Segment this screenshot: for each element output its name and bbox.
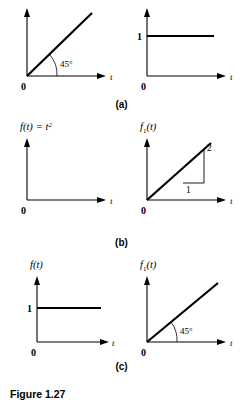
x-axis-label: t <box>112 338 115 348</box>
x-axis-arrowhead <box>97 73 106 79</box>
chart-panel-c-right: f1(t) 45° 0 t <box>128 256 238 358</box>
function-label: f(t) <box>30 259 43 271</box>
figure-caption: Figure 1.27 <box>10 388 65 400</box>
y-axis-arrowhead <box>144 276 150 285</box>
origin-label: 0 <box>21 205 26 216</box>
origin-label: 0 <box>141 81 146 92</box>
slope-rise-label: 2 <box>207 143 212 153</box>
slope-run-label: 1 <box>186 185 191 195</box>
angle-label: 45° <box>180 326 193 336</box>
y-axis-arrowhead <box>24 138 30 147</box>
x-axis-arrowhead <box>217 339 226 345</box>
y-axis-arrowhead <box>144 138 150 147</box>
x-axis-arrowhead <box>217 197 226 203</box>
chart-a-right-svg: 1 0 t <box>128 4 238 92</box>
angle-label: 45° <box>60 59 73 69</box>
x-axis-label: t <box>110 72 113 82</box>
function-label: f1(t) <box>140 259 157 273</box>
y-tick-label-one: 1 <box>27 303 32 314</box>
origin-label: 0 <box>141 347 146 358</box>
chart-panel-a-left: 45° 0 t <box>8 4 118 92</box>
x-axis-arrowhead <box>217 73 226 79</box>
chart-panel-b-right: f1(t) 1 2 0 t <box>128 118 238 216</box>
origin-label: 0 <box>31 347 36 358</box>
panel-caption-a: (a) <box>0 99 243 110</box>
figure-row-c: f(t) 1 0 t f1(t) <box>0 256 243 361</box>
chart-a-left-svg: 45° 0 t <box>8 4 118 92</box>
chart-c-right-svg: f1(t) 45° 0 t <box>128 256 240 358</box>
chart-panel-a-right: 1 0 t <box>128 4 238 92</box>
origin-label: 0 <box>21 81 26 92</box>
y-axis-arrowhead <box>34 276 40 285</box>
panel-caption-c: (c) <box>0 361 243 372</box>
chart-c-left-svg: f(t) 1 0 t <box>8 256 120 358</box>
y-axis-arrowhead <box>24 8 30 17</box>
chart-b-left-svg: f(t)= t2 0 t <box>8 118 120 216</box>
chart-panel-c-left: f(t) 1 0 t <box>8 256 118 358</box>
panel-caption-b: (b) <box>0 237 243 248</box>
figure-row-a: 45° 0 t 1 0 t <box>0 4 243 94</box>
y-axis-arrowhead <box>144 8 150 17</box>
figure-row-b: f(t)= t2 0 t f1(t) 1 <box>0 118 243 218</box>
y-tick-label-one: 1 <box>137 31 142 42</box>
x-axis-arrowhead <box>97 197 106 203</box>
function-label: f(t)= t2 <box>20 121 52 134</box>
x-axis-label: t <box>230 72 233 82</box>
angle-arc <box>50 55 57 76</box>
angle-arc <box>171 322 177 342</box>
chart-panel-b-left: f(t)= t2 0 t <box>8 118 118 216</box>
x-axis-label: t <box>110 196 113 206</box>
x-axis-arrowhead <box>100 339 109 345</box>
plot-ramp-line <box>147 143 211 200</box>
function-label: f1(t) <box>140 121 157 135</box>
x-axis-label: t <box>230 338 233 348</box>
chart-b-right-svg: f1(t) 1 2 0 t <box>128 118 240 216</box>
x-axis-label: t <box>230 196 233 206</box>
origin-label: 0 <box>141 205 146 216</box>
